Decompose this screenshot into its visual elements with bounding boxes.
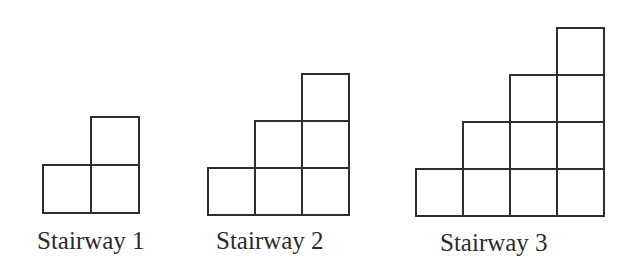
stair-square	[301, 167, 350, 216]
stairway-label: Stairway 1	[37, 228, 145, 253]
stair-square	[301, 73, 350, 122]
stair-square	[42, 164, 92, 214]
stair-square	[90, 164, 140, 214]
stair-square	[556, 27, 605, 76]
stair-square	[509, 74, 558, 123]
stairway-label: Stairway 3	[440, 230, 548, 255]
stair-square	[415, 168, 464, 217]
stair-square	[462, 168, 511, 217]
stair-square	[90, 116, 140, 166]
stair-square	[254, 120, 303, 169]
stair-square	[509, 121, 558, 170]
stairway-label: Stairway 2	[216, 228, 324, 253]
stair-square	[207, 167, 256, 216]
stair-square	[301, 120, 350, 169]
stair-square	[254, 167, 303, 216]
stair-square	[462, 121, 511, 170]
stair-square	[556, 168, 605, 217]
stair-square	[556, 121, 605, 170]
stair-square	[509, 168, 558, 217]
stair-square	[556, 74, 605, 123]
